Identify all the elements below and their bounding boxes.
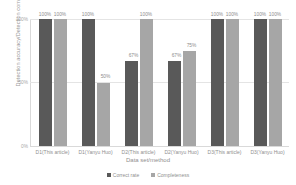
bar-pair: [31, 19, 74, 146]
legend-swatch-icon: [107, 173, 111, 177]
bar-correct-rate[interactable]: [168, 61, 181, 146]
data-label-row: 100%: [117, 9, 160, 18]
data-label: 100%: [82, 12, 95, 18]
legend-label: Correct rate: [113, 172, 139, 178]
bar-completeness[interactable]: [183, 51, 196, 146]
bar-correct-rate[interactable]: [254, 19, 267, 146]
bar-completeness[interactable]: [97, 83, 110, 147]
bar-group: 100% 100%: [203, 19, 246, 147]
data-label: 100%: [226, 12, 239, 18]
bar-group: 100% 50%: [74, 19, 117, 147]
y-tick-0: 0%: [14, 144, 28, 149]
y-tick-50: 50%: [14, 80, 28, 85]
bar-completeness[interactable]: [140, 19, 153, 146]
bar-group: 100% 100%: [31, 19, 74, 147]
bar-completeness[interactable]: [226, 19, 239, 146]
bar-correct-rate[interactable]: [211, 19, 224, 146]
legend-swatch-icon: [151, 173, 155, 177]
data-label-row: 100% 100%: [203, 9, 246, 18]
legend-label: Completeness: [157, 172, 189, 178]
chart-legend: Correct rate Completeness: [0, 170, 296, 180]
bar-correct-rate[interactable]: [125, 61, 138, 146]
data-label: 100%: [254, 12, 267, 18]
bar-chart: Detection accuracy/Detection completenes…: [0, 0, 296, 185]
data-label: 100%: [211, 12, 224, 18]
bar-correct-rate[interactable]: [82, 19, 95, 146]
y-tick-100: 100%: [14, 17, 28, 22]
bar-completeness[interactable]: [269, 19, 282, 146]
bar-pair: [74, 19, 117, 146]
bar-pair: [117, 19, 160, 146]
bar-group: 100% 67%: [117, 19, 160, 147]
bar-pair: [246, 19, 289, 146]
bar-groups: 100% 100% 100% 50%: [31, 19, 289, 147]
plot-area: 100% 50% 0% 100% 100% 100% 50%: [30, 19, 289, 147]
data-label-row: 100% 100%: [246, 9, 289, 18]
bar-group: 100% 100%: [246, 19, 289, 147]
bar-completeness[interactable]: [54, 19, 67, 146]
data-label-row: 100%: [74, 9, 117, 18]
x-axis-title: Data set/method: [0, 156, 296, 165]
bar-group: 67% 75%: [160, 19, 203, 147]
legend-item-completeness[interactable]: Completeness: [151, 172, 189, 178]
data-label: 100%: [140, 12, 153, 18]
bar-pair: [160, 19, 203, 146]
data-label: 100%: [269, 12, 282, 18]
data-label: 100%: [54, 12, 67, 18]
data-label: 100%: [39, 12, 52, 18]
bar-pair: [203, 19, 246, 146]
data-label-row: 100% 100%: [31, 9, 74, 18]
legend-item-correct-rate[interactable]: Correct rate: [107, 172, 139, 178]
bar-correct-rate[interactable]: [39, 19, 52, 146]
